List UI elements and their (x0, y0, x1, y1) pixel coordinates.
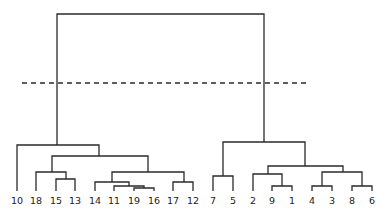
leaf-label: 18 (26, 195, 46, 207)
left-cluster-link (17, 145, 99, 191)
leaf-label: 6 (362, 195, 382, 207)
leaf-label: 9 (262, 195, 282, 207)
link-19-16 (134, 188, 154, 191)
leaf-label: 5 (223, 195, 243, 207)
leaf-label: 8 (342, 195, 362, 207)
root-link (57, 14, 264, 145)
leaf-label: 17 (163, 195, 183, 207)
link-18-15-13 (36, 172, 66, 191)
link-8-6 (352, 186, 372, 191)
leaf-label: 1 (282, 195, 302, 207)
link-15-13 (56, 179, 75, 191)
right-sub-link (268, 166, 343, 174)
leaf-label: 4 (302, 195, 322, 207)
link-2-9-1 (253, 174, 282, 191)
link-14-19-17-12 (112, 172, 184, 182)
leaf-label: 13 (65, 195, 85, 207)
leaf-label: 7 (203, 195, 223, 207)
leaf-label: 15 (46, 195, 66, 207)
left-sub-link (52, 156, 148, 172)
dendrogram (0, 0, 389, 215)
right-cluster-link (223, 142, 305, 176)
leaf-label: 10 (7, 195, 27, 207)
link-7-5 (213, 176, 233, 191)
leaf-label: 3 (322, 195, 342, 207)
leaf-label: 2 (243, 195, 263, 207)
link-4-3-8-6 (322, 172, 362, 186)
leaf-label: 12 (183, 195, 203, 207)
leaf-label: 19 (124, 195, 144, 207)
link-4-3 (312, 186, 332, 191)
link-9-1 (272, 186, 292, 191)
link-17-12 (173, 182, 193, 191)
leaf-label: 16 (144, 195, 164, 207)
leaf-label: 11 (104, 195, 124, 207)
leaf-label: 14 (85, 195, 105, 207)
